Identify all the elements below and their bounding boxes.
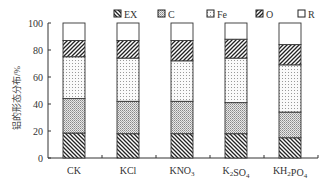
x-category-label: KCl <box>120 165 137 176</box>
bar-segment-fe <box>63 57 85 99</box>
y-tick-label: 0 <box>38 153 43 164</box>
legend-label: R <box>308 9 315 20</box>
bar-segment-c <box>117 101 139 133</box>
y-axis-label: 铝的形态分布/% <box>11 65 22 130</box>
bar-segment-ex <box>279 138 301 158</box>
legend-label: O <box>266 9 273 20</box>
bar-segment-o <box>63 41 85 57</box>
bar-segment-ex <box>171 134 193 158</box>
y-tick-label: 40 <box>33 99 43 110</box>
legend-swatch <box>256 10 263 17</box>
x-category-label: CK <box>67 165 82 176</box>
legend-item-o: O <box>256 9 273 20</box>
x-axis: CKKClKNO3K2SO4KH2PO4 <box>48 155 318 180</box>
bar-segment-o <box>225 39 247 58</box>
bar-segment-r <box>279 23 301 45</box>
bar-kcl <box>117 23 139 158</box>
bar-segment-o <box>171 41 193 61</box>
bar-segment-fe <box>117 58 139 101</box>
stacked-bar-chart: EXCFeOR 020406080100 CKKClKNO3K2SO4KH2PO… <box>0 0 328 186</box>
legend-swatch <box>207 10 214 17</box>
bar-segment-o <box>117 41 139 59</box>
bar-segment-r <box>225 23 247 39</box>
x-category-label: KNO3 <box>169 165 195 178</box>
legend-label: EX <box>124 9 138 20</box>
bar-k2so4 <box>225 23 247 158</box>
legend-item-r: R <box>298 9 315 20</box>
y-tick-label: 100 <box>28 18 43 29</box>
bar-segment-c <box>171 101 193 133</box>
bar-segment-fe <box>225 58 247 103</box>
bar-kno3 <box>171 23 193 158</box>
legend-swatch <box>114 10 121 17</box>
bars <box>63 23 301 158</box>
bar-segment-c <box>225 103 247 134</box>
bar-segment-ex <box>117 134 139 158</box>
bar-segment-fe <box>279 65 301 112</box>
bar-segment-fe <box>171 61 193 102</box>
bar-segment-r <box>117 23 139 41</box>
bar-segment-ex <box>225 134 247 158</box>
legend-label: C <box>168 9 175 20</box>
bar-segment-ex <box>63 133 85 158</box>
bar-ck <box>63 23 85 158</box>
bar-segment-c <box>279 112 301 138</box>
bar-segment-c <box>63 99 85 133</box>
legend-item-fe: Fe <box>207 9 228 20</box>
bar-segment-o <box>279 45 301 65</box>
legend-swatch <box>298 10 305 17</box>
y-axis: 020406080100 <box>28 18 51 164</box>
y-tick-label: 60 <box>33 72 43 83</box>
bar-segment-r <box>171 23 193 41</box>
legend-label: Fe <box>217 9 228 20</box>
y-tick-label: 80 <box>33 45 43 56</box>
bar-segment-r <box>63 23 85 41</box>
x-category-label: KH2PO4 <box>273 165 308 180</box>
legend: EXCFeOR <box>114 9 315 20</box>
legend-swatch <box>158 10 165 17</box>
y-tick-label: 20 <box>33 126 43 137</box>
x-category-label: K2SO4 <box>222 165 250 180</box>
bar-kh2po4 <box>279 23 301 158</box>
legend-item-ex: EX <box>114 9 138 20</box>
legend-item-c: C <box>158 9 175 20</box>
